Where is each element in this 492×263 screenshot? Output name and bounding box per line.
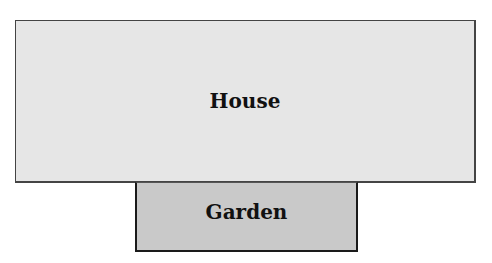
- garden-label: Garden: [206, 200, 288, 224]
- house-region: House: [15, 20, 476, 183]
- garden-region: Garden: [135, 182, 358, 252]
- house-label: House: [210, 89, 281, 113]
